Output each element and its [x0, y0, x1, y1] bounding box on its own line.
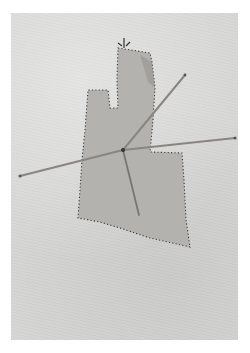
- fabric-shape: [78, 48, 190, 247]
- rod-junction: [121, 148, 125, 152]
- artwork-figure: [0, 0, 250, 353]
- rod-end-right: [234, 137, 237, 140]
- rod-end-top: [184, 74, 187, 77]
- pin-icon: [118, 38, 130, 48]
- rod-end-left: [19, 175, 22, 178]
